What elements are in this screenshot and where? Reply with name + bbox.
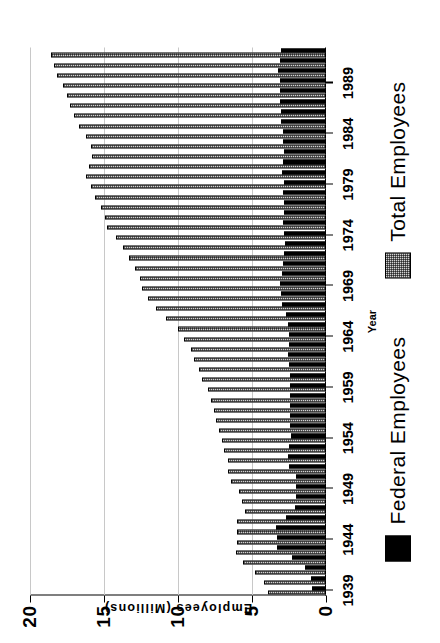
bar-pair	[30, 58, 326, 67]
bar-federal-employees	[288, 322, 326, 326]
bar-pair	[30, 423, 326, 432]
bar-total-employees	[101, 205, 326, 209]
bar-total-employees	[228, 469, 326, 473]
bar-pair	[30, 159, 326, 168]
bar-federal-employees	[284, 251, 326, 255]
bar-pair	[30, 78, 326, 87]
bar-pair	[30, 494, 326, 503]
bar-pair	[30, 545, 326, 554]
category-axis-label: 1959	[340, 371, 356, 403]
bar-total-employees	[54, 63, 326, 67]
bar-federal-employees	[288, 454, 326, 458]
bar-pair	[30, 393, 326, 402]
bar-federal-employees	[312, 586, 326, 590]
chart-legend: Federal Employees Total Employees	[378, 47, 418, 595]
category-axis-label: 1964	[340, 320, 356, 352]
bar-federal-employees	[283, 220, 326, 224]
bar-pair	[30, 261, 326, 270]
bar-total-employees	[202, 377, 326, 381]
legend-swatch-total	[385, 252, 411, 278]
bar-pair	[30, 302, 326, 311]
bar-federal-employees	[284, 149, 326, 153]
bar-total-employees	[148, 296, 326, 300]
category-axis-label: 1949	[340, 472, 356, 504]
bar-total-employees	[191, 347, 326, 351]
bar-pair	[30, 190, 326, 199]
category-axis-tick	[326, 81, 333, 82]
bar-total-employees	[91, 144, 326, 148]
bar-pair	[30, 352, 326, 361]
bar-federal-employees	[305, 565, 326, 569]
bar-federal-employees	[280, 281, 326, 285]
bar-pair	[30, 454, 326, 463]
category-axis-tick	[326, 437, 333, 438]
bar-federal-employees	[311, 576, 326, 580]
bar-total-employees	[89, 164, 326, 168]
legend-item-federal: Federal Employees	[385, 336, 411, 561]
bar-pair	[30, 271, 326, 280]
bar-pair	[30, 565, 326, 574]
bar-total-employees	[92, 154, 326, 158]
bar-total-employees	[237, 540, 326, 544]
bar-pair	[30, 444, 326, 453]
plot-area: 05101520 1939194419491954195919641969197…	[30, 47, 326, 595]
value-axis-label: 20	[19, 605, 41, 637]
bar-federal-employees	[277, 535, 326, 539]
bar-pair	[30, 362, 326, 371]
bar-pair	[30, 251, 326, 260]
bar-total-employees	[129, 255, 326, 259]
bar-federal-employees	[289, 342, 326, 346]
bar-federal-employees	[281, 119, 326, 123]
bar-pair	[30, 576, 326, 585]
chart-screenshot: 05101520 1939194419491954195919641969197…	[0, 0, 440, 643]
bar-total-employees	[116, 235, 326, 239]
bar-total-employees	[255, 570, 326, 574]
bar-federal-employees	[290, 383, 326, 387]
category-axis-tick	[326, 284, 333, 285]
bar-total-employees	[86, 174, 326, 178]
bar-federal-employees	[284, 231, 326, 235]
legend-label-total: Total Employees	[386, 81, 410, 241]
bar-pair	[30, 170, 326, 179]
bar-pair	[30, 149, 326, 158]
bar-pair	[30, 139, 326, 148]
bar-federal-employees	[290, 413, 326, 417]
bar-pair	[30, 88, 326, 97]
bar-pair	[30, 231, 326, 240]
bar-federal-employees	[288, 352, 326, 356]
bar-federal-employees	[289, 464, 326, 468]
bar-total-employees	[178, 327, 326, 331]
value-axis-tick	[252, 595, 253, 602]
value-axis-tick	[326, 595, 327, 602]
legend-item-total: Total Employees	[385, 81, 411, 278]
category-axis-label: 1979	[340, 168, 356, 200]
bar-pair	[30, 281, 326, 290]
bar-total-employees	[214, 408, 326, 412]
bar-federal-employees	[290, 403, 326, 407]
bar-total-employees	[268, 590, 326, 594]
bar-federal-employees	[289, 444, 326, 448]
bar-federal-employees	[283, 190, 326, 194]
bar-total-employees	[70, 103, 326, 107]
bar-total-employees	[245, 509, 326, 513]
bar-total-employees	[239, 489, 326, 493]
bar-federal-employees	[292, 555, 326, 559]
bar-total-employees	[211, 398, 326, 402]
bar-total-employees	[156, 306, 326, 310]
bar-pair	[30, 586, 326, 595]
legend-label-federal: Federal Employees	[386, 336, 410, 524]
category-axis-tick	[326, 132, 333, 133]
bar-federal-employees	[282, 170, 326, 174]
bar-total-employees	[74, 113, 326, 117]
bar-total-employees	[216, 418, 326, 422]
bar-pair	[30, 413, 326, 422]
bar-total-employees	[228, 458, 326, 462]
bar-pair	[30, 291, 326, 300]
bar-total-employees	[199, 367, 326, 371]
bar-pair	[30, 342, 326, 351]
y-axis-title: Employees (Millions)	[104, 600, 252, 614]
bar-total-employees	[219, 428, 326, 432]
bar-pair	[30, 210, 326, 219]
bar-pair	[30, 555, 326, 564]
bar-federal-employees	[286, 515, 326, 519]
